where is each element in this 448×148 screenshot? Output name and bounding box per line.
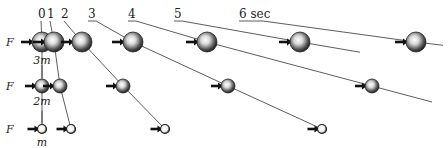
mass-ball-t3 <box>318 125 327 134</box>
force-label: F <box>5 36 14 49</box>
mass-ball-t4 <box>365 79 379 93</box>
time-label: 3 <box>88 7 96 21</box>
force-label: F <box>5 123 14 136</box>
mass-ball-t3 <box>123 32 143 52</box>
mass-ball-t4 <box>197 32 217 52</box>
mass-ball-t6 <box>406 32 426 52</box>
mass-ball-t5 <box>290 32 310 52</box>
mass-label: 2m <box>32 95 50 108</box>
time-label: 0 <box>38 7 46 21</box>
time-label: 1 <box>47 7 55 21</box>
mass-ball-t2 <box>72 32 92 52</box>
mass-ball-t3 <box>221 79 235 93</box>
time-label: 6 sec <box>239 7 271 21</box>
mass-ball-t2 <box>116 79 130 93</box>
mass-ball-t0 <box>38 125 47 134</box>
row-3m: F3m <box>5 32 426 67</box>
mass-rows: F3mF2mFm <box>5 32 426 147</box>
row-m: Fm <box>5 111 327 148</box>
time-label: 5 <box>174 7 182 21</box>
mass-label: m <box>37 136 47 148</box>
time-lines <box>41 21 443 129</box>
time-label: 4 <box>128 7 136 21</box>
mass-ball-t2 <box>161 125 170 134</box>
time-label: 2 <box>61 7 69 21</box>
force-label: F <box>5 80 14 93</box>
time-line-4 <box>128 21 432 102</box>
row-2m: F2m <box>5 65 379 108</box>
mass-ball-t1 <box>67 125 76 134</box>
motion-diagram: 0123456 sec F3mF2mFm <box>0 0 448 147</box>
time-labels: 0123456 sec <box>38 7 271 21</box>
mass-ball-t1 <box>53 79 67 93</box>
